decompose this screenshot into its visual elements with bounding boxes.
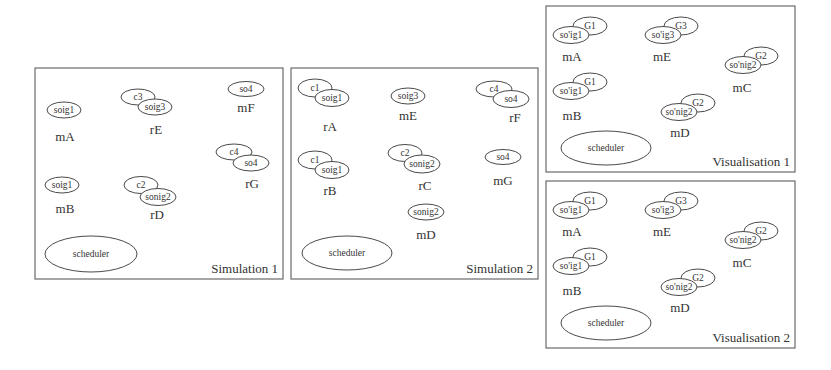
component-label: c4 [230, 147, 239, 157]
component-label: so'ig1 [560, 86, 583, 96]
node-name: mD [416, 227, 436, 242]
node-name: rA [323, 119, 337, 134]
scheduler-label: scheduler [73, 249, 110, 259]
component-label: c1 [311, 83, 320, 93]
component-label: so4 [244, 158, 257, 168]
component-label: sonig2 [409, 159, 435, 169]
component-label: G2 [692, 98, 704, 108]
component-label: G1 [584, 21, 596, 31]
component-label: c2 [401, 148, 410, 158]
panel-title: Visualisation 2 [712, 330, 790, 345]
component-label: so'nig2 [729, 235, 756, 245]
node-name: mD [670, 125, 690, 140]
panel-simulation-1: schedulersoig1mAc3soig3rEso4mFc4so4rGsoi… [35, 68, 283, 279]
component-label: sonig2 [145, 192, 171, 202]
component-label: c4 [490, 84, 499, 94]
panel-visualisation-1: schedulerG1so'ig1mAG3so'ig3mEG2so'nig2mC… [546, 6, 795, 172]
component-label: G1 [584, 196, 596, 206]
scheduler-node: scheduler [302, 236, 392, 270]
component-label: c1 [311, 155, 320, 165]
node-name: mE [399, 108, 417, 123]
component-label: so'ig3 [652, 205, 675, 215]
node-name: mF [237, 100, 254, 115]
component-label: so4 [239, 84, 252, 94]
panel-title: Simulation 2 [466, 261, 533, 276]
node-name: rG [245, 176, 259, 191]
scheduler-node: scheduler [561, 306, 651, 340]
node-name: mD [670, 300, 690, 315]
component-label: soig1 [322, 93, 343, 103]
component-label: soig3 [145, 102, 166, 112]
component-label: c3 [134, 92, 143, 102]
component-label: sonig2 [413, 207, 439, 217]
node-name: mE [653, 224, 671, 239]
component-label: so'nig2 [665, 282, 692, 292]
node-name: mB [563, 283, 582, 298]
node-name: rF [509, 110, 521, 125]
node-name: mC [733, 255, 752, 270]
node-name: mA [562, 49, 582, 64]
node-name: mA [562, 224, 582, 239]
component-label: G1 [584, 77, 596, 87]
component-label: soig1 [52, 180, 73, 190]
component-label: so'ig1 [560, 30, 583, 40]
panel-title: Simulation 1 [211, 261, 278, 276]
node-name: rB [324, 183, 337, 198]
component-label: so4 [504, 94, 517, 104]
scheduler-node: scheduler [561, 131, 651, 165]
node-name: mG [493, 173, 513, 188]
diagram-canvas: schedulersoig1mAc3soig3rEso4mFc4so4rGsoi… [0, 0, 831, 370]
scheduler-label: scheduler [329, 248, 366, 258]
panel-visualisation-2: schedulerG1so'ig1mAG3so'ig3mEG2so'nig2mC… [546, 181, 795, 348]
node-name: mB [56, 201, 75, 216]
component-label: G2 [692, 273, 704, 283]
component-label: G1 [584, 252, 596, 262]
panel-title: Visualisation 1 [712, 154, 790, 169]
component-label: soig3 [398, 91, 419, 101]
component-label: soig1 [54, 105, 75, 115]
scheduler-node: scheduler [45, 236, 137, 272]
node-name: mA [55, 129, 75, 144]
node-name: mC [733, 80, 752, 95]
scheduler-label: scheduler [588, 318, 625, 328]
component-label: so'ig3 [652, 30, 675, 40]
node-name: rE [150, 122, 162, 137]
component-label: c2 [137, 180, 146, 190]
component-label: so'ig1 [560, 205, 583, 215]
component-label: so'nig2 [665, 107, 692, 117]
node-name: rD [150, 207, 164, 222]
node-name: mE [653, 49, 671, 64]
component-label: so4 [496, 152, 509, 162]
scheduler-label: scheduler [588, 143, 625, 153]
component-label: soig1 [322, 165, 343, 175]
node-name: rC [419, 178, 432, 193]
component-label: so'ig1 [560, 261, 583, 271]
node-name: mB [563, 108, 582, 123]
panel-simulation-2: schedulerc1soig1rAsoig3mEc4so4rFc1soig1r… [291, 68, 538, 279]
component-label: so'nig2 [729, 60, 756, 70]
